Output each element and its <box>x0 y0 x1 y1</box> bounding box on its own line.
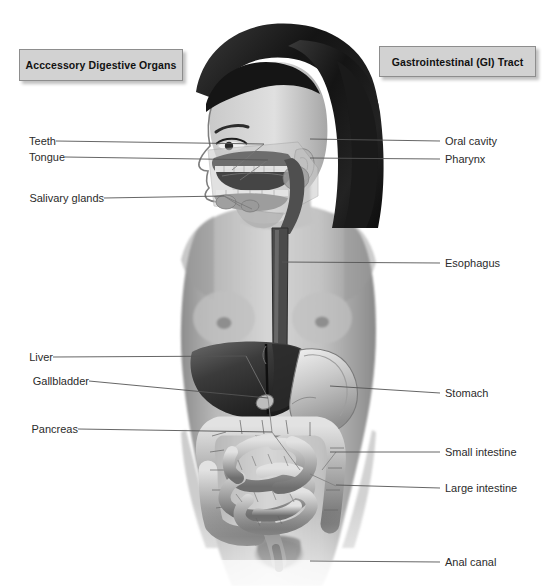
label-small-intestine: Small intestine <box>445 447 517 458</box>
label-pharynx: Pharynx <box>445 154 485 165</box>
anatomy-illustration <box>0 0 551 586</box>
label-pancreas: Pancreas <box>22 424 78 435</box>
label-anal-canal: Anal canal <box>445 557 496 568</box>
digestive-system-figure: Acccessory Digestive Organs Gastrointest… <box>0 0 551 586</box>
label-tongue: Tongue <box>22 152 65 163</box>
label-teeth: Teeth <box>22 136 56 147</box>
label-stomach: Stomach <box>445 388 488 399</box>
gastrointestinal-tract-header: Gastrointestinal (GI) Tract <box>379 46 536 77</box>
label-oral-cavity: Oral cavity <box>445 136 497 147</box>
label-esophagus: Esophagus <box>445 258 500 269</box>
label-liver: Liver <box>22 352 53 363</box>
label-gallbladder: Gallbladder <box>22 376 89 387</box>
label-salivary-glands: Salivary glands <box>22 193 104 204</box>
accessory-digestive-organs-header: Acccessory Digestive Organs <box>19 49 183 81</box>
label-large-intestine: Large intestine <box>445 483 517 494</box>
